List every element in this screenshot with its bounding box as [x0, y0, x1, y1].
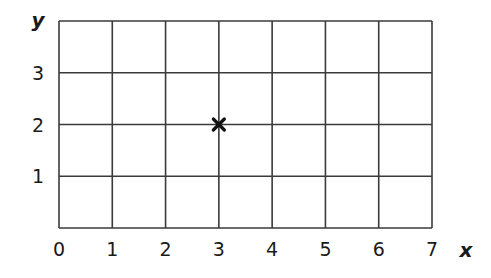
x-axis-label: x	[459, 238, 474, 262]
y-tick-label: 2	[32, 114, 44, 136]
x-tick-label: 5	[319, 238, 331, 260]
x-tick-label: 7	[426, 238, 438, 260]
y-tick-label: 1	[32, 165, 44, 187]
y-tick-label: 3	[32, 62, 44, 84]
coordinate-grid-chart: 01234567 123 x y	[0, 0, 491, 278]
y-axis-label: y	[31, 8, 45, 32]
x-tick-label: 6	[373, 238, 385, 260]
x-tick-label: 4	[266, 238, 278, 260]
x-axis-ticks: 01234567	[53, 238, 438, 260]
x-tick-label: 2	[160, 238, 172, 260]
grid	[59, 21, 432, 228]
x-tick-label: 3	[213, 238, 225, 260]
y-axis-ticks: 123	[32, 62, 44, 188]
x-tick-label: 0	[53, 238, 65, 260]
x-tick-label: 1	[106, 238, 118, 260]
